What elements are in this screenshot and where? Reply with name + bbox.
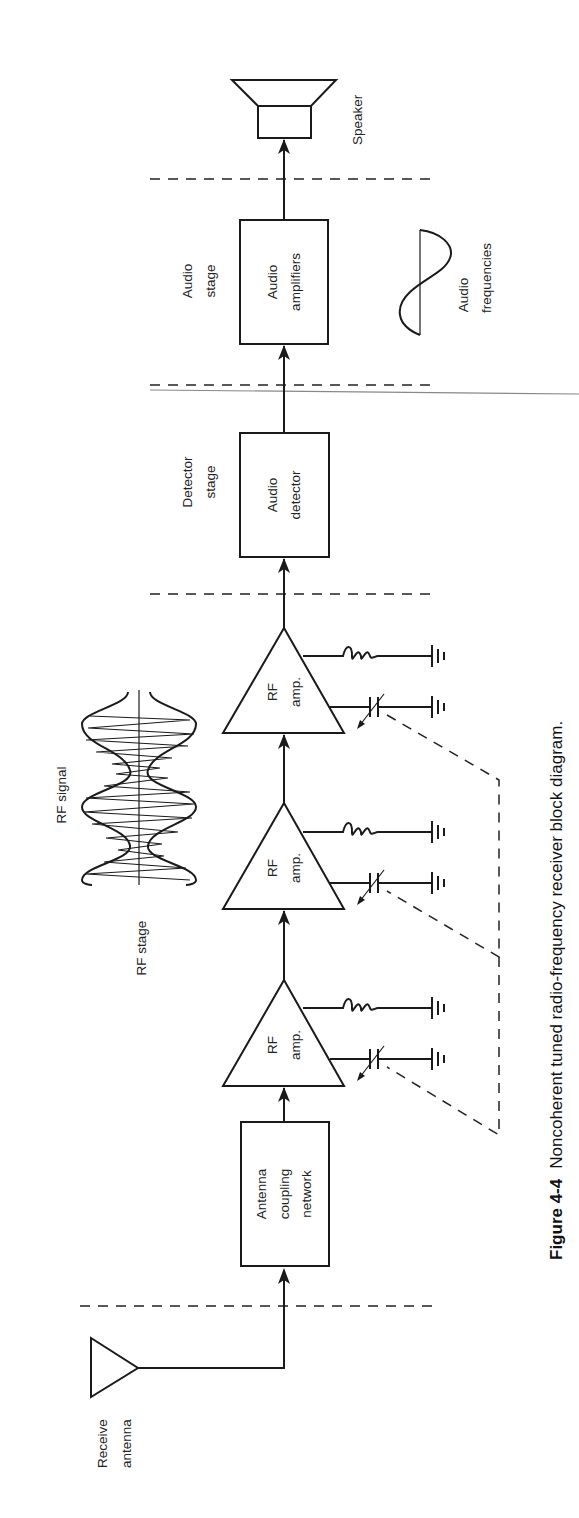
ganged-tuning-link-lower	[387, 957, 499, 1135]
speaker-icon	[232, 80, 336, 106]
amplifiers-label-2: amplifiers	[288, 253, 303, 311]
inductor-icon	[303, 999, 432, 1011]
audio-amplifiers: Audio amplifiers	[240, 220, 328, 344]
coupling-label-1: Antenna	[254, 1168, 269, 1219]
detector-stage-label-1: Detector	[180, 456, 195, 508]
speaker: Speaker	[232, 80, 365, 145]
ground-icon	[432, 696, 444, 718]
rf-signal-label: RF signal	[54, 766, 69, 823]
antenna-icon	[91, 1338, 138, 1397]
amplifiers-label-1: Audio	[265, 265, 280, 300]
rf-signal-waveform: RF signal	[54, 690, 196, 885]
audio-detector: Audio detector	[240, 433, 329, 557]
rf-amp-1-label-1: RF	[265, 1036, 280, 1054]
rf-amp-3-label-2: amp.	[288, 677, 303, 707]
inductor-icon	[303, 647, 432, 659]
antenna-label-2: antenna	[119, 1419, 134, 1468]
figure-caption-text: Noncoherent tuned radio-frequency receiv…	[547, 721, 566, 1169]
coupling-label-2: coupling	[277, 1169, 292, 1219]
audio-frequencies-label-2: frequencies	[479, 243, 494, 313]
rf-stage-label: RF stage	[134, 921, 149, 976]
detector-label-1: Audio	[265, 478, 280, 513]
inductor-icon	[303, 823, 432, 835]
detector-label-2: detector	[288, 470, 303, 519]
audio-frequencies-label-1: Audio	[456, 278, 471, 313]
variable-capacitor-icon	[330, 694, 432, 729]
ground-icon	[432, 872, 444, 894]
detector-stage-label-2: stage	[203, 465, 218, 498]
ground-icon	[432, 997, 444, 1019]
antenna-label-1: Receive	[95, 1419, 110, 1468]
figure-caption: Figure 4-4Noncoherent tuned radio-freque…	[547, 721, 566, 1260]
coupling-label-3: network	[299, 1170, 314, 1218]
block-diagram: Receive antenna Antenna coupling network…	[0, 0, 579, 1518]
variable-capacitor-icon	[330, 870, 432, 905]
page-seam-line	[150, 390, 579, 394]
rf-amp-1-label-2: amp.	[288, 1030, 303, 1060]
audio-frequency-waveform: Audio frequencies	[400, 230, 494, 335]
ground-icon	[432, 1048, 444, 1070]
rf-amp-3: RF amp.	[223, 628, 444, 733]
receive-antenna: Receive antenna	[91, 1338, 138, 1468]
audio-stage-label-1: Audio	[180, 264, 195, 299]
ground-icon	[432, 645, 444, 667]
speaker-label: Speaker	[350, 94, 365, 145]
rf-amp-3-label-1: RF	[265, 683, 280, 701]
audio-stage-label-2: stage	[203, 264, 218, 297]
rf-amp-2-label-1: RF	[265, 859, 280, 877]
rf-amp-1: RF amp.	[223, 980, 444, 1086]
rf-amp-2: RF amp.	[223, 803, 444, 909]
antenna-coupling-network: Antenna coupling network	[241, 1122, 329, 1266]
rf-amp-2-label-2: amp.	[288, 853, 303, 883]
ground-icon	[432, 821, 444, 843]
figure-number: Figure 4-4	[547, 1178, 566, 1260]
variable-capacitor-icon	[330, 1046, 432, 1081]
